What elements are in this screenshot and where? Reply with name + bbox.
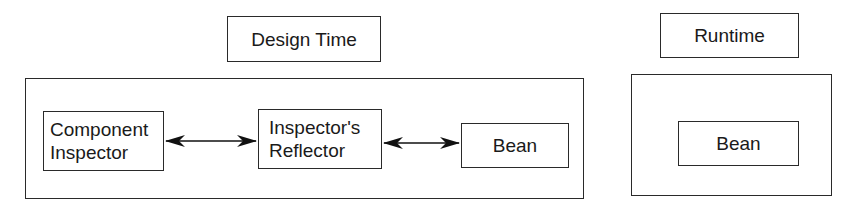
runtime-title: Runtime xyxy=(694,24,765,47)
runtime-title-box: Runtime xyxy=(660,13,799,58)
runtime-bean-label: Bean xyxy=(716,132,760,155)
runtime-bean-node: Bean xyxy=(678,121,799,166)
